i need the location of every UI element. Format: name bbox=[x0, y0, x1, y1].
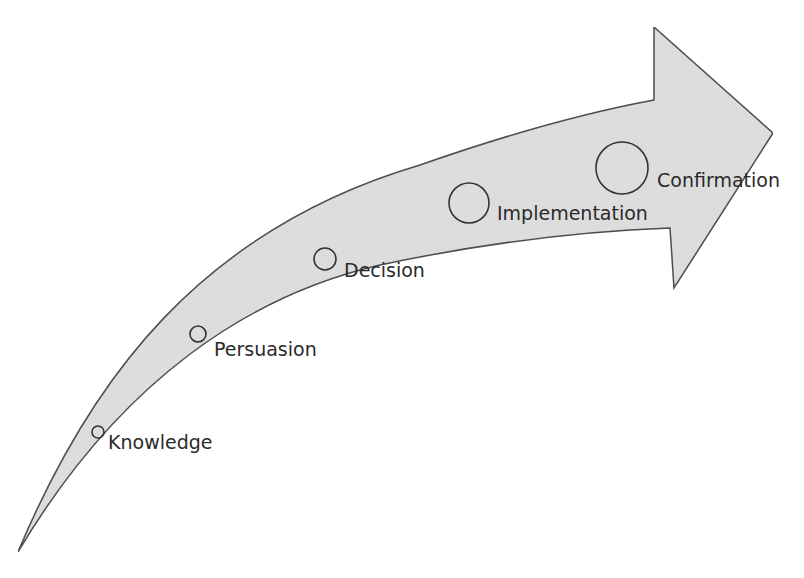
stage-knowledge: Knowledge bbox=[92, 426, 222, 453]
stage-label: Decision bbox=[344, 259, 425, 281]
adoption-process-diagram: Knowledge Persuasion Decision Implementa… bbox=[0, 0, 804, 578]
stage-label: Persuasion bbox=[214, 338, 317, 360]
stage-label: Confirmation bbox=[657, 169, 780, 191]
curved-arrow bbox=[18, 27, 773, 552]
stage-label: Knowledge bbox=[108, 431, 212, 453]
stage-label: Implementation bbox=[497, 202, 648, 224]
